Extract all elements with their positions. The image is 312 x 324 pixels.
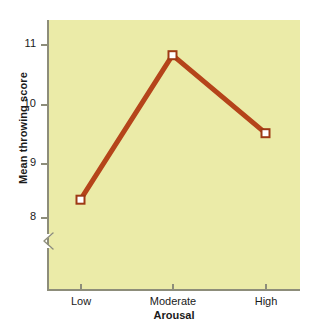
figure-chart-arousal-throwing-score: 11 10 9 8 Low Moderate High Mean throwin… — [0, 0, 312, 324]
axis-break-zigzag-icon — [39, 232, 55, 250]
x-tick-label-high: High — [223, 295, 309, 307]
y-tick-9 — [41, 163, 48, 165]
y-tick-8 — [41, 217, 48, 219]
x-tick-label-low: Low — [38, 295, 124, 307]
x-tick-low — [80, 284, 82, 290]
x-tick-high — [265, 284, 267, 290]
plot-area — [48, 20, 300, 290]
x-tick-moderate — [172, 284, 174, 290]
y-axis-title: Mean throwing score — [17, 43, 29, 213]
x-axis-title: Arousal — [48, 309, 300, 321]
y-tick-11 — [41, 44, 48, 46]
x-tick-label-moderate: Moderate — [130, 295, 216, 307]
y-tick-10 — [41, 104, 48, 106]
